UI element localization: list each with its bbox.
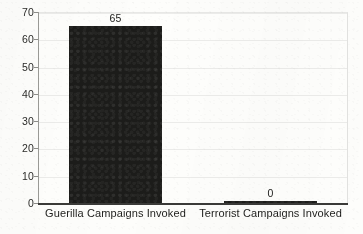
- category-label: Guerilla Campaigns Invoked: [38, 207, 193, 219]
- y-tick-label: 50: [4, 62, 34, 73]
- y-tick-label: 60: [4, 34, 34, 45]
- bar-value-label: 65: [86, 13, 146, 24]
- y-tick-label: 10: [4, 171, 34, 182]
- y-tick-label: 20: [4, 143, 34, 154]
- y-tick-label: 30: [4, 116, 34, 127]
- bar[interactable]: [69, 26, 162, 203]
- y-tick-label: 0: [4, 198, 34, 209]
- x-axis-category-labels: Guerilla Campaigns InvokedTerrorist Camp…: [38, 207, 348, 219]
- y-axis-tick-labels: 706050403020100: [0, 0, 34, 234]
- y-tick-label: 40: [4, 89, 34, 100]
- bar-value-label: 0: [241, 188, 301, 199]
- bar[interactable]: [224, 201, 317, 204]
- x-axis-line: [38, 203, 348, 205]
- bar-chart: 706050403020100 650 Guerilla Campaigns I…: [0, 0, 363, 234]
- y-tick-label: 70: [4, 7, 34, 18]
- category-label: Terrorist Campaigns Invoked: [193, 207, 348, 219]
- bars-layer: 650: [38, 12, 348, 203]
